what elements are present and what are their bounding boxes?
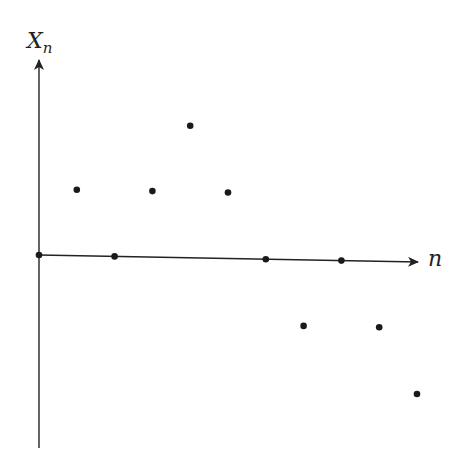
data-point bbox=[149, 188, 156, 195]
data-point bbox=[225, 189, 232, 196]
data-point bbox=[36, 252, 43, 259]
x-axis-label: n bbox=[428, 246, 442, 271]
data-point bbox=[414, 391, 421, 398]
data-point bbox=[111, 253, 118, 260]
data-point bbox=[263, 256, 270, 263]
data-point bbox=[338, 257, 345, 264]
random-walk-chart: Xn n bbox=[0, 0, 463, 473]
y-axis-label: Xn bbox=[25, 28, 52, 57]
data-point bbox=[74, 186, 81, 193]
data-point bbox=[300, 323, 307, 330]
data-point bbox=[187, 123, 194, 130]
data-point bbox=[376, 324, 383, 331]
data-points bbox=[36, 123, 421, 398]
x-axis bbox=[39, 255, 418, 262]
